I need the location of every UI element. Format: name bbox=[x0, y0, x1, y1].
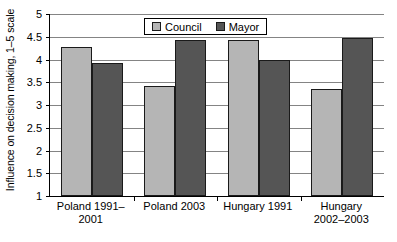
x-axis-category-label: Hungary 1991 bbox=[216, 200, 300, 213]
bar-council-1 bbox=[61, 47, 92, 196]
bar-mayor-2 bbox=[175, 40, 206, 196]
bar-mayor-3 bbox=[259, 60, 290, 196]
y-axis-tick-label: 4.5 bbox=[27, 31, 42, 43]
bar-mayor-1 bbox=[92, 63, 123, 196]
bar-chart-figure: Influence on decision making, 1–5 scale … bbox=[0, 0, 397, 242]
x-axis-category-label-line1: Hungary bbox=[320, 200, 362, 212]
y-axis-tick-label: 2.5 bbox=[27, 122, 42, 134]
chart-legend: CouncilMayor bbox=[144, 18, 267, 35]
x-axis-category-label-line1: Hungary 1991 bbox=[223, 200, 292, 212]
bar-council-3 bbox=[228, 40, 259, 196]
x-axis-category-label: Poland 2003 bbox=[133, 200, 217, 213]
legend-entry: Council bbox=[152, 21, 202, 33]
legend-entry: Mayor bbox=[216, 21, 260, 33]
x-axis-category-label: Hungary2002–2003 bbox=[300, 200, 384, 226]
y-axis-tick-mark bbox=[46, 196, 50, 197]
y-axis-tick-label: 3 bbox=[36, 99, 42, 111]
y-axis-title: Influence on decision making, 1–5 scale bbox=[0, 0, 20, 200]
x-axis-category-label-line1: Poland 2003 bbox=[143, 200, 205, 212]
y-axis-tick-label: 2 bbox=[36, 145, 42, 157]
y-axis-title-text: Influence on decision making, 1–5 scale bbox=[4, 9, 16, 191]
x-axis-category-label-line1: Poland 1991– bbox=[57, 200, 125, 212]
x-axis-category-label-line2: 2002–2003 bbox=[300, 213, 384, 226]
y-axis-tick-label: 3.5 bbox=[27, 76, 42, 88]
y-axis-tick-label: 1.5 bbox=[27, 167, 42, 179]
legend-swatch-icon bbox=[152, 22, 161, 31]
legend-swatch-icon bbox=[216, 22, 225, 31]
legend-label: Mayor bbox=[229, 21, 260, 33]
y-axis-tick-label: 4 bbox=[36, 54, 42, 66]
legend-label: Council bbox=[165, 21, 202, 33]
bars-layer bbox=[50, 14, 384, 196]
x-axis-category-label: Poland 1991–2001 bbox=[49, 200, 133, 226]
x-axis-category-label-line2: 2001 bbox=[49, 213, 133, 226]
bar-council-4 bbox=[311, 89, 342, 196]
y-axis-tick-labels: 54.543.532.521.51 bbox=[20, 14, 46, 196]
bar-council-2 bbox=[144, 86, 175, 196]
x-axis-category-labels: Poland 1991–2001Poland 2003Hungary 1991H… bbox=[49, 200, 383, 242]
y-axis-tick-label: 5 bbox=[36, 8, 42, 20]
bar-mayor-4 bbox=[342, 38, 373, 196]
y-axis-tick-label: 1 bbox=[36, 190, 42, 202]
plot-area bbox=[49, 14, 384, 197]
